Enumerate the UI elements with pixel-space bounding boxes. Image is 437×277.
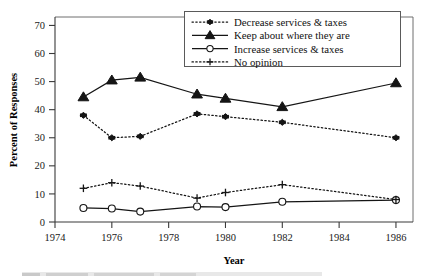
marker-diamond-bar bbox=[207, 21, 212, 23]
x-tick-label: 1986 bbox=[385, 232, 406, 243]
y-tick-label: 50 bbox=[35, 76, 46, 87]
marker-circle bbox=[80, 204, 87, 211]
marker-circle bbox=[194, 203, 201, 210]
y-axis: 010203040506070 Percent of Responses bbox=[8, 17, 55, 228]
marker-diamond-bar bbox=[109, 136, 115, 139]
marker-diamond-bar bbox=[279, 121, 285, 124]
legend-label: No opinion bbox=[234, 56, 283, 68]
marker-circle bbox=[207, 45, 213, 51]
y-tick-label: 30 bbox=[35, 132, 46, 143]
legend: Decrease services & taxesKeep about wher… bbox=[185, 12, 401, 68]
marker-triangle bbox=[135, 72, 146, 81]
series-1 bbox=[78, 72, 401, 110]
x-tick-label: 1978 bbox=[158, 232, 179, 243]
x-tick-label: 1980 bbox=[215, 232, 236, 243]
marker-diamond-bar bbox=[393, 136, 399, 139]
marker-diamond-bar bbox=[194, 113, 200, 116]
series-line bbox=[83, 200, 396, 212]
y-tick-label: 40 bbox=[35, 104, 46, 115]
marker-diamond-bar bbox=[80, 114, 86, 117]
series-2 bbox=[80, 197, 400, 216]
x-tick-label: 1982 bbox=[272, 232, 293, 243]
marker-circle bbox=[137, 208, 144, 215]
series-0 bbox=[80, 111, 399, 141]
marker-circle bbox=[108, 205, 115, 212]
series-line bbox=[83, 114, 396, 138]
series-line bbox=[83, 183, 396, 200]
figure-caption-partial bbox=[22, 272, 322, 276]
marker-diamond-bar bbox=[223, 115, 229, 118]
data-series-layer bbox=[78, 72, 401, 215]
y-tick-label: 70 bbox=[35, 20, 46, 31]
series-3 bbox=[80, 179, 400, 203]
marker-circle bbox=[222, 204, 229, 211]
marker-diamond-bar bbox=[137, 135, 143, 138]
legend-label: Increase services & taxes bbox=[234, 43, 343, 55]
marker-triangle bbox=[78, 92, 89, 101]
line-chart: 010203040506070 Percent of Responses 197… bbox=[0, 0, 437, 277]
figure-container: 010203040506070 Percent of Responses 197… bbox=[0, 0, 437, 277]
x-tick-label: 1984 bbox=[329, 232, 351, 243]
legend-label: Decrease services & taxes bbox=[234, 16, 347, 28]
marker-triangle bbox=[391, 78, 402, 87]
x-axis-title: Year bbox=[224, 255, 245, 266]
y-tick-label: 0 bbox=[40, 217, 45, 228]
x-tick-label: 1976 bbox=[101, 232, 122, 243]
x-tick-label: 1974 bbox=[45, 232, 67, 243]
marker-circle bbox=[279, 198, 286, 205]
y-tick-label: 60 bbox=[35, 48, 46, 59]
y-axis-title: Percent of Responses bbox=[8, 73, 19, 167]
x-axis: 1974197619781980198219841986 Year bbox=[45, 222, 414, 266]
y-tick-label: 20 bbox=[35, 160, 46, 171]
series-line bbox=[83, 77, 396, 106]
y-tick-label: 10 bbox=[35, 189, 46, 200]
legend-label: Keep about where they are bbox=[234, 29, 350, 41]
